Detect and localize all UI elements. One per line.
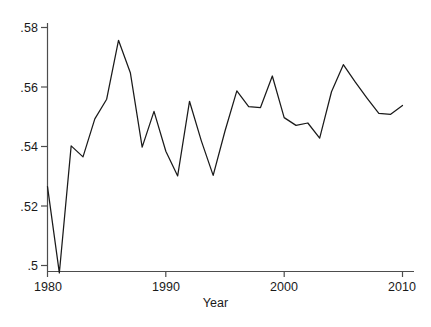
- y-tick-label-05: .5: [8, 259, 38, 273]
- x-axis-title: Year: [0, 296, 431, 310]
- chart-container: .58 .56 .54 .52 .5 1980 1990 2000 2010 Y…: [0, 0, 431, 327]
- line-chart-plot: [0, 0, 431, 327]
- x-tick-label-1990: 1990: [136, 280, 196, 294]
- x-tick-label-2010: 2010: [372, 280, 431, 294]
- y-axis-ticks: [41, 28, 47, 266]
- axes-group: [41, 23, 414, 277]
- y-tick-label-056: .56: [8, 81, 38, 95]
- x-tick-label-1980: 1980: [18, 280, 78, 294]
- y-tick-label-058: .58: [8, 21, 38, 35]
- y-tick-label-054: .54: [8, 140, 38, 154]
- data-series-line: [48, 40, 403, 273]
- x-tick-label-2000: 2000: [254, 280, 314, 294]
- y-tick-label-052: .52: [8, 200, 38, 214]
